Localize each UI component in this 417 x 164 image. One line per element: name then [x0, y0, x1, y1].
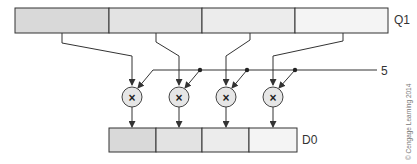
d0-label: D0	[302, 133, 318, 147]
junction-dot	[198, 68, 202, 72]
junction-dot	[293, 68, 297, 72]
q1-lane-1	[109, 8, 202, 33]
q1-lane-1-connector	[156, 33, 179, 85]
d0-lane-0	[109, 128, 156, 152]
d0-lane-3	[249, 128, 297, 152]
multiplier: ×	[216, 87, 236, 107]
d0-register	[109, 128, 297, 152]
d0-lane-1	[156, 128, 202, 152]
multiply-icon: ×	[175, 91, 182, 105]
scalar-label: 5	[381, 64, 388, 78]
multiplier: ×	[263, 87, 283, 107]
multiplier: ×	[122, 87, 142, 107]
scalar-to-mult-3	[279, 70, 295, 88]
q1-lane-2	[202, 8, 295, 33]
q1-label: Q1	[394, 13, 410, 27]
scalar-to-mult-0	[138, 70, 153, 88]
scalar-to-mult-1	[185, 70, 200, 88]
q1-lane-2-connector	[226, 33, 250, 85]
multiply-icon: ×	[222, 91, 229, 105]
copyright-text: © Cengage Learning 2014	[405, 83, 413, 160]
q1-lane-3	[295, 8, 388, 33]
q1-lane-0-connector	[62, 33, 132, 85]
d0-lane-2	[202, 128, 249, 152]
multiply-icon: ×	[269, 91, 276, 105]
q1-lane-0	[15, 8, 109, 33]
simd-diagram: Q1 5 × × × ×	[0, 0, 417, 164]
multiplier: ×	[169, 87, 189, 107]
junction-dot	[245, 68, 249, 72]
multiply-icon: ×	[128, 91, 135, 105]
scalar-to-mult-2	[232, 70, 247, 88]
q1-register	[15, 8, 388, 33]
q1-lane-3-connector	[273, 33, 343, 85]
